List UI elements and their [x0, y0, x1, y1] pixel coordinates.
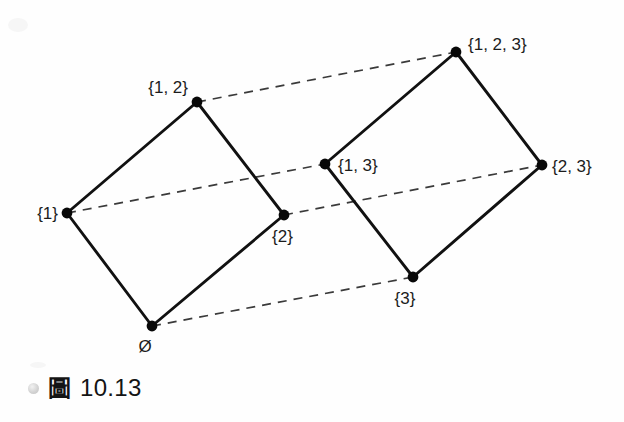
- node-dot-empty: [147, 321, 158, 332]
- dashed-edge-empty-to-s3: [152, 277, 413, 326]
- solid-edge-empty-to-s2: [152, 215, 284, 326]
- solid-edges-group: [67, 52, 542, 326]
- node-label-s12: {1, 2}: [148, 78, 188, 97]
- solid-edge-s1-to-s12: [67, 102, 197, 213]
- node-label-empty: Ø: [138, 337, 151, 356]
- nodes-group: [62, 47, 548, 332]
- solid-edge-s3-to-s23: [413, 165, 542, 277]
- bullet-circle-icon: [28, 383, 39, 394]
- dashed-edges-group: [67, 52, 542, 326]
- node-label-s123: {1, 2, 3}: [468, 35, 527, 54]
- node-label-s1: {1}: [37, 204, 58, 223]
- figure-caption: 圖 10.13: [28, 372, 142, 404]
- node-dot-s12: [192, 97, 203, 108]
- hasse-diagram-canvas: Ø{1}{2}{3}{1, 2}{1, 3}{2, 3}{1, 2, 3}: [0, 0, 624, 422]
- node-dot-s1: [62, 208, 73, 219]
- dashed-edge-s2-to-s23: [284, 165, 542, 215]
- solid-edge-s3-to-s13: [325, 164, 413, 277]
- node-dot-s13: [320, 159, 331, 170]
- solid-edge-empty-to-s1: [67, 213, 152, 326]
- dashed-edge-s1-to-s13: [67, 164, 325, 213]
- node-dot-s23: [537, 160, 548, 171]
- caption-cjk-label: 圖: [48, 377, 71, 400]
- solid-edge-s13-to-s123: [325, 52, 456, 164]
- node-label-s3: {3}: [395, 289, 416, 308]
- node-label-s13: {1, 3}: [338, 156, 378, 175]
- caption-figure-number: 10.13: [80, 376, 142, 400]
- node-dot-s3: [408, 272, 419, 283]
- figure-container: Ø{1}{2}{3}{1, 2}{1, 3}{2, 3}{1, 2, 3} 圖 …: [0, 0, 624, 422]
- node-dot-s123: [451, 47, 462, 58]
- solid-edge-s2-to-s12: [197, 102, 284, 215]
- solid-edge-s23-to-s123: [456, 52, 542, 165]
- node-label-s23: {2, 3}: [552, 157, 592, 176]
- node-label-s2: {2}: [272, 227, 293, 246]
- node-dot-s2: [279, 210, 290, 221]
- dashed-edge-s12-to-s123: [197, 52, 456, 102]
